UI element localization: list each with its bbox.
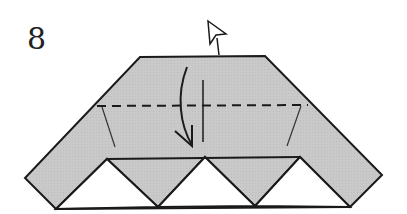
origami-diagram [0,0,407,214]
push-arrow-icon [208,21,226,55]
